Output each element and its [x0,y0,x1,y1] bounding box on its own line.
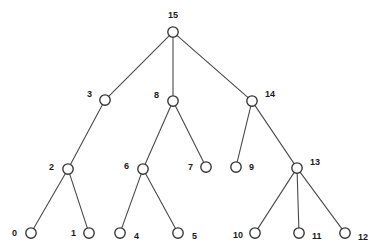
tree-edge [70,105,102,165]
tree-node-label: 14 [265,89,275,99]
tree-node-label: 2 [49,162,54,172]
tree-node-circle[interactable] [168,27,178,37]
tree-node-label: 10 [233,230,243,240]
tree-edge [109,36,170,97]
tree-node-label: 3 [87,89,92,99]
tree-node-circle[interactable] [115,228,125,238]
tree-edge [34,174,66,229]
tree-node-circle[interactable] [340,228,350,238]
tree-node-label: 7 [188,162,193,172]
tree-node-circle[interactable] [292,163,302,173]
tree-node-circle[interactable] [250,228,260,238]
tree-edge [122,174,141,228]
tree-node-circle[interactable] [294,228,304,238]
tree-node-label: 13 [310,157,320,167]
tree-diagram-svg: 0123456789101112131415 [0,0,377,252]
tree-node-circle[interactable] [168,96,178,106]
tree-edge [255,105,294,163]
tree-edge [146,174,176,229]
tree-node-circle[interactable] [138,164,148,174]
tree-node-circle[interactable] [201,162,211,172]
tree-edge [70,174,88,228]
edges-group [34,35,342,228]
tree-node-circle[interactable] [100,95,110,105]
tree-edge [300,172,342,229]
tree-node-label: 1 [71,228,76,238]
tree-edge [237,106,251,162]
tree-node-label: 5 [192,231,197,241]
tree-edge [297,173,299,228]
tree-node-label: 6 [124,161,129,171]
tree-node-label: 12 [358,232,368,242]
tree-node-label: 0 [12,228,17,238]
tree-node-circle[interactable] [231,162,241,172]
tree-node-label: 4 [134,231,139,241]
tree-node-circle[interactable] [173,228,183,238]
tree-node-label: 15 [168,10,178,20]
tree-edge [175,106,203,163]
tree-node-circle[interactable] [26,228,36,238]
nodes-group [26,27,350,238]
tree-node-circle[interactable] [247,96,257,106]
tree-diagram-canvas: 0123456789101112131415 [0,0,377,252]
tree-edge [177,35,248,97]
tree-node-label: 11 [312,231,322,241]
labels-group: 0123456789101112131415 [12,10,368,242]
tree-node-circle[interactable] [63,164,73,174]
tree-node-circle[interactable] [84,228,94,238]
tree-edge [258,172,294,228]
tree-node-label: 8 [154,90,159,100]
tree-edge [145,106,171,164]
tree-node-label: 9 [249,162,254,172]
